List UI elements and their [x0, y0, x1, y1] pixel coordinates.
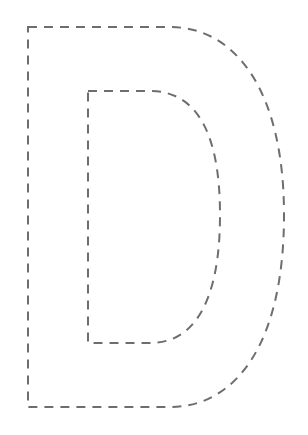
inner-d-counter	[88, 91, 220, 343]
outer-d-contour	[28, 27, 284, 407]
letter-d-outline	[0, 0, 308, 435]
letter-d-tracing-canvas	[0, 0, 308, 435]
